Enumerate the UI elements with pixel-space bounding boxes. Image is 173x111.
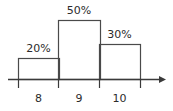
bar-rect-8 [19, 59, 60, 80]
histogram-chart: 20% 50% 30% 8 9 10 [0, 0, 173, 111]
bar-value-label-9: 50% [58, 5, 100, 17]
x-axis-group [8, 76, 166, 88]
x-axis-ticks [19, 80, 141, 89]
bar-rect-9 [59, 21, 101, 80]
bar-rect-10 [100, 45, 141, 80]
x-axis-tick-label-9: 9 [58, 93, 100, 105]
bar-value-label-10: 30% [99, 29, 140, 41]
bar-value-label-8: 20% [18, 43, 59, 55]
x-axis-tick-label-10: 10 [99, 93, 140, 105]
plot-area: 20% 50% 30% 8 9 10 [0, 0, 173, 111]
x-axis-tick-label-8: 8 [18, 93, 59, 105]
x-axis-arrowhead [159, 76, 166, 83]
